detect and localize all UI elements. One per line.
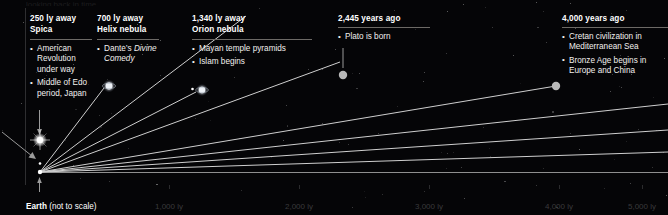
nebula-icon-helix	[102, 80, 115, 93]
column-object: Spica	[30, 24, 92, 36]
event-item: Plato is born	[338, 32, 430, 42]
column-plato: 2,445 years ago Plato is born	[338, 13, 430, 45]
column-rule	[97, 39, 159, 40]
infographic-canvas: looking back in time	[0, 0, 668, 215]
column-object: Orion nebula	[192, 24, 312, 36]
event-item: Middle of Edo period, Japan	[30, 78, 92, 99]
axis-tick-mark	[299, 185, 300, 189]
axis-tick-mark	[642, 185, 643, 189]
column-rule	[30, 39, 92, 40]
event-item: Cretan civilization in Mediterranean Sea	[562, 32, 668, 53]
event-item: American Revolution under way	[30, 44, 92, 75]
event-item: Islam begins	[192, 57, 312, 67]
column-spica: 250 ly away Spica American Revolution un…	[30, 13, 92, 102]
column-helix-nebula: 700 ly away Helix nebula Dante’s Divine …	[97, 13, 159, 68]
column-rule	[562, 27, 668, 28]
column-distance: 1,340 ly away	[192, 13, 312, 24]
event-item: Bronze Age begins in Europe and China	[562, 56, 668, 77]
axis-tick-mark	[559, 185, 560, 189]
column-distance: 2,445 years ago	[338, 13, 430, 24]
star-burst-icon	[30, 130, 50, 150]
column-orion-nebula: 1,340 ly away Orion nebula Mayan temple …	[192, 13, 312, 71]
event-item: Dante’s Divine Comedy	[97, 44, 159, 65]
column-distance: 4,000 years ago	[562, 13, 668, 24]
origin-label: Earth (not to scale)	[26, 202, 97, 211]
column-distance: 250 ly away	[30, 13, 92, 24]
axis-tick-label: 2,000 ly	[285, 202, 313, 211]
node-dot-bronze	[552, 82, 560, 90]
event-item: Mayan temple pyramids	[192, 44, 312, 54]
axis-tick-label: 1,000 ly	[155, 202, 183, 211]
column-object: Helix nebula	[97, 24, 159, 36]
nebula-icon-orion	[191, 84, 208, 96]
column-bronze-age: 4,000 years ago Cretan civilization in M…	[562, 13, 668, 80]
axis-tick-label: 3,000 ly	[415, 202, 443, 211]
node-dot-plato	[339, 71, 347, 79]
axis-tick-mark	[429, 185, 430, 189]
axis-tick-label: 4,000 ly	[545, 202, 573, 211]
column-rule	[338, 27, 430, 28]
axis-tick-mark	[169, 185, 170, 189]
axis-tick-label: 5,000 ly	[628, 202, 656, 211]
column-distance: 700 ly away	[97, 13, 159, 24]
column-rule	[192, 39, 312, 40]
